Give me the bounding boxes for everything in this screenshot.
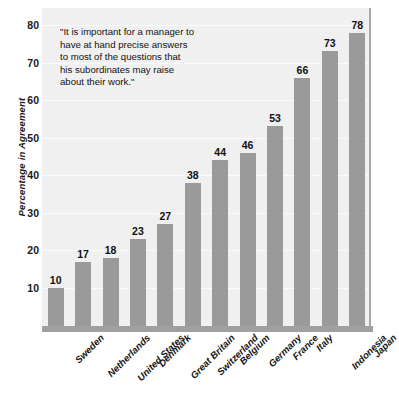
bar-great-britain	[157, 224, 173, 326]
bar-group: 10	[48, 288, 64, 326]
bar-value-label: 17	[77, 248, 89, 260]
bar-value-label: 73	[324, 37, 336, 49]
bar-value-label: 38	[187, 169, 199, 181]
bar-value-label: 18	[105, 244, 117, 256]
quote-line: "It is important for a manager to	[60, 26, 240, 39]
bar-united-states	[103, 258, 119, 326]
quote-line: about their work."	[60, 76, 240, 89]
bar-japan	[349, 33, 365, 326]
bar-value-label: 44	[214, 146, 226, 158]
bar-belgium	[212, 160, 228, 326]
bar-group: 17	[75, 262, 91, 326]
quote-line: have at hand precise answers	[60, 39, 240, 52]
x-label-sweden: Sweden	[72, 332, 105, 365]
bar-group: 23	[130, 239, 146, 326]
bar-group: 73	[322, 51, 338, 326]
bar-group: 66	[294, 78, 310, 326]
y-axis-tick-50: 50	[15, 132, 39, 144]
bar-group: 46	[240, 153, 256, 326]
y-axis-tick-40: 40	[15, 169, 39, 181]
bar-value-label: 66	[297, 64, 309, 76]
quote-line: his subordinates may raise	[60, 64, 240, 77]
bar-group: 27	[157, 224, 173, 326]
y-axis-tick-60: 60	[15, 94, 39, 106]
bar-indonesia	[322, 51, 338, 326]
bar-group: 78	[349, 33, 365, 326]
bar-value-label: 23	[132, 225, 144, 237]
bar-sweden	[48, 288, 64, 326]
quote-line: to most of the questions that	[60, 51, 240, 64]
bar-germany	[240, 153, 256, 326]
bar-value-label: 53	[269, 112, 281, 124]
x-label-italy: Italy	[314, 332, 335, 353]
bar-netherlands	[75, 262, 91, 326]
bar-france	[267, 126, 283, 326]
bar-italy	[294, 78, 310, 326]
y-axis-tick-80: 80	[15, 19, 39, 31]
bar-switzerland	[185, 183, 201, 326]
x-axis-category-labels: SwedenNetherlandsUnited StatesDenmarkGre…	[0, 332, 383, 400]
bar-denmark	[130, 239, 146, 326]
bar-value-label: 46	[242, 139, 254, 151]
y-axis-tick-30: 30	[15, 207, 39, 219]
bar-value-label: 78	[351, 19, 363, 31]
survey-question-quote: "It is important for a manager tohave at…	[60, 26, 240, 89]
y-axis-tick-70: 70	[15, 57, 39, 69]
y-axis-tick-20: 20	[15, 244, 39, 256]
bar-value-label: 27	[160, 210, 172, 222]
y-axis-tick-10: 10	[15, 282, 39, 294]
bar-value-label: 10	[50, 274, 62, 286]
bar-group: 38	[185, 183, 201, 326]
bar-group: 53	[267, 126, 283, 326]
bar-group: 18	[103, 258, 119, 326]
bar-group: 44	[212, 160, 228, 326]
